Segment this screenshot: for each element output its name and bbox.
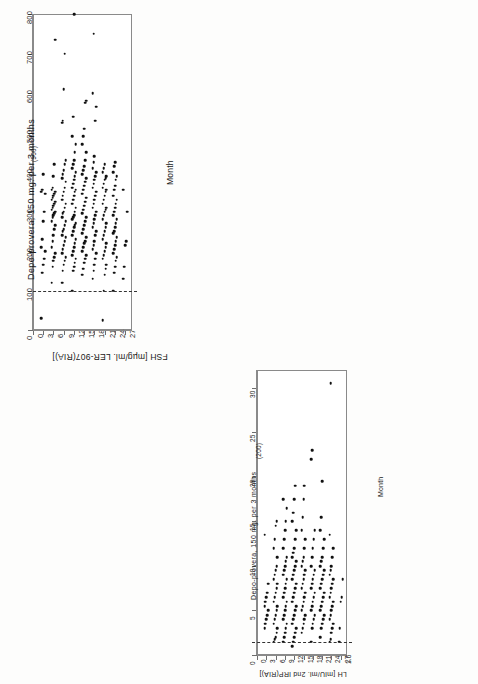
data-point <box>61 198 64 201</box>
data-point <box>284 609 287 612</box>
data-point <box>331 627 334 630</box>
data-point <box>82 188 85 191</box>
data-point <box>62 194 65 197</box>
fsh-threshold-line <box>28 291 137 292</box>
data-point <box>275 609 278 612</box>
data-point <box>62 228 65 231</box>
data-point <box>74 175 77 178</box>
data-point <box>321 480 324 483</box>
lh-data-points <box>257 370 347 655</box>
data-point <box>94 234 97 237</box>
data-point <box>284 565 287 568</box>
data-point <box>302 578 305 581</box>
data-point <box>73 214 76 217</box>
data-point <box>73 266 76 269</box>
data-point <box>292 511 295 514</box>
data-point <box>125 240 128 243</box>
data-point <box>73 13 76 16</box>
data-point <box>104 246 107 249</box>
data-point <box>273 538 276 541</box>
data-point <box>291 578 294 581</box>
data-point <box>274 525 277 528</box>
data-point <box>339 627 342 630</box>
data-point <box>312 596 315 599</box>
data-point <box>293 614 296 617</box>
data-point <box>115 240 118 243</box>
data-point <box>113 248 116 251</box>
data-point <box>283 569 286 572</box>
data-point <box>332 600 335 603</box>
data-point <box>323 614 326 617</box>
data-point <box>283 614 286 617</box>
data-point <box>85 100 88 103</box>
data-point <box>295 605 298 608</box>
data-point <box>273 596 276 599</box>
data-point <box>292 574 295 577</box>
data-point <box>293 636 296 639</box>
data-point <box>95 210 98 213</box>
data-point <box>124 244 127 247</box>
data-point <box>275 587 278 590</box>
data-point <box>105 222 108 225</box>
data-point <box>263 605 266 608</box>
data-point <box>322 618 325 621</box>
data-point <box>102 202 105 205</box>
data-point <box>311 449 314 452</box>
data-point <box>300 529 303 532</box>
data-point <box>304 614 307 617</box>
data-point <box>115 260 118 263</box>
data-point <box>339 600 342 603</box>
data-point <box>53 228 56 231</box>
data-point <box>102 171 105 174</box>
value-axis-tick-label: 25 <box>249 435 256 443</box>
data-point <box>274 636 277 639</box>
data-point <box>105 206 108 209</box>
data-point <box>113 271 116 274</box>
data-point <box>94 175 97 178</box>
data-point <box>81 143 84 146</box>
data-point <box>85 216 88 219</box>
data-point <box>319 529 322 532</box>
data-point <box>311 556 314 559</box>
data-point <box>291 623 294 626</box>
data-point <box>294 484 297 487</box>
scanned-figure-page: 0100200300400500600700800 03691215182124… <box>0 0 478 684</box>
data-point <box>73 194 76 197</box>
data-point <box>304 569 307 572</box>
data-point <box>64 202 67 205</box>
data-point <box>62 264 65 267</box>
data-point <box>82 135 85 138</box>
data-point <box>105 175 108 178</box>
data-point <box>276 582 279 585</box>
data-point <box>273 623 276 626</box>
data-point <box>273 618 276 621</box>
data-point <box>265 596 268 599</box>
data-point <box>263 627 266 630</box>
data-point <box>112 194 115 197</box>
data-point <box>83 224 86 227</box>
data-point <box>302 556 305 559</box>
data-point <box>282 596 285 599</box>
data-point <box>91 187 94 190</box>
data-point <box>74 222 77 225</box>
data-point <box>40 317 43 320</box>
data-point <box>320 582 323 585</box>
data-point <box>63 240 66 243</box>
data-point <box>104 267 107 270</box>
data-point <box>42 264 45 267</box>
data-point <box>74 238 77 241</box>
data-point <box>93 198 96 201</box>
data-point <box>102 258 105 261</box>
data-point <box>73 246 76 249</box>
data-point <box>92 244 95 247</box>
data-point <box>282 498 285 501</box>
data-point <box>92 202 95 205</box>
data-point <box>61 234 64 237</box>
data-point <box>267 582 270 585</box>
data-point <box>50 246 53 249</box>
data-point <box>328 618 331 621</box>
data-point <box>294 565 297 568</box>
data-point <box>93 218 96 221</box>
data-point <box>74 206 77 209</box>
data-point <box>113 188 116 191</box>
